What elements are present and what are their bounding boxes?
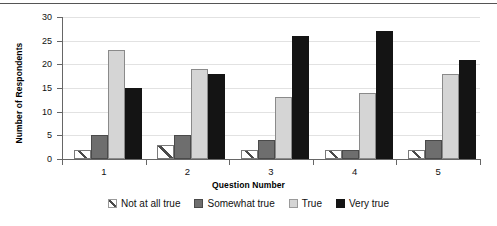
legend-swatch-true xyxy=(289,199,298,208)
legend-swatch-very-true xyxy=(336,199,345,208)
legend-label: True xyxy=(302,198,322,209)
plot-area xyxy=(62,17,480,159)
legend-label: Somewhat true xyxy=(207,198,274,209)
x-tick-mark xyxy=(480,160,481,165)
x-axis-title: Question Number xyxy=(0,180,497,190)
bar xyxy=(157,145,174,159)
bar xyxy=(108,50,125,159)
bar xyxy=(342,150,359,159)
bar xyxy=(208,74,225,159)
y-tick-label: 10 xyxy=(28,108,52,117)
y-tick-mark xyxy=(57,17,62,18)
y-tick-label: 25 xyxy=(28,37,52,46)
y-axis-line xyxy=(62,17,63,160)
legend-item: Not at all true xyxy=(108,198,180,209)
bar xyxy=(258,140,275,159)
y-tick-mark xyxy=(57,64,62,65)
x-tick-label: 2 xyxy=(172,166,202,177)
x-tick-mark xyxy=(313,160,314,165)
bar xyxy=(442,74,459,159)
bar xyxy=(292,36,309,159)
x-tick-label: 5 xyxy=(423,166,453,177)
x-tick-label: 1 xyxy=(89,166,119,177)
x-tick-label: 4 xyxy=(340,166,370,177)
legend-item: Somewhat true xyxy=(194,198,274,209)
legend-swatch-somewhat-true xyxy=(194,199,203,208)
bar-chart-figure: Number of Respondents Question Number No… xyxy=(0,0,497,226)
y-tick-mark xyxy=(57,41,62,42)
bar xyxy=(376,31,393,159)
bar xyxy=(325,150,342,159)
y-tick-label: 5 xyxy=(28,131,52,140)
bar xyxy=(425,140,442,159)
top-divider xyxy=(0,3,497,4)
y-tick-mark xyxy=(57,135,62,136)
bar-group xyxy=(408,17,476,159)
x-tick-mark xyxy=(229,160,230,165)
bar xyxy=(275,97,292,159)
x-tick-label: 3 xyxy=(256,166,286,177)
legend-swatch-not-at-all-true xyxy=(108,199,117,208)
legend-item: True xyxy=(289,198,322,209)
bar xyxy=(408,150,425,159)
y-tick-mark xyxy=(57,112,62,113)
bar-group xyxy=(325,17,393,159)
chart-legend: Not at all true Somewhat true True Very … xyxy=(0,198,497,209)
bar-group xyxy=(74,17,142,159)
x-tick-mark xyxy=(62,160,63,165)
bar xyxy=(459,60,476,159)
y-tick-label: 0 xyxy=(28,155,52,164)
y-tick-label: 20 xyxy=(28,60,52,69)
bar xyxy=(359,93,376,159)
bar xyxy=(91,135,108,159)
legend-label: Not at all true xyxy=(121,198,180,209)
legend-item: Very true xyxy=(336,198,389,209)
x-axis-line xyxy=(62,159,481,160)
y-axis-title: Number of Respondents xyxy=(14,18,24,168)
bar xyxy=(174,135,191,159)
x-tick-mark xyxy=(396,160,397,165)
x-tick-mark xyxy=(146,160,147,165)
y-tick-label: 15 xyxy=(28,84,52,93)
y-tick-mark xyxy=(57,88,62,89)
bar xyxy=(125,88,142,159)
bar xyxy=(74,150,91,159)
bar xyxy=(241,150,258,159)
y-tick-label: 30 xyxy=(28,13,52,22)
bar-group xyxy=(157,17,225,159)
legend-label: Very true xyxy=(349,198,389,209)
bar-group xyxy=(241,17,309,159)
bar xyxy=(191,69,208,159)
